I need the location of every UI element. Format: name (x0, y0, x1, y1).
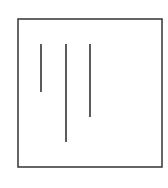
diagram-canvas (0, 0, 168, 188)
